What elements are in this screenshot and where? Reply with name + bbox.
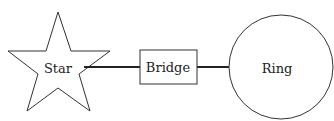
bridge-label: Bridge [146, 60, 190, 75]
star-label: Star [44, 61, 72, 76]
ring-label: Ring [262, 61, 293, 76]
